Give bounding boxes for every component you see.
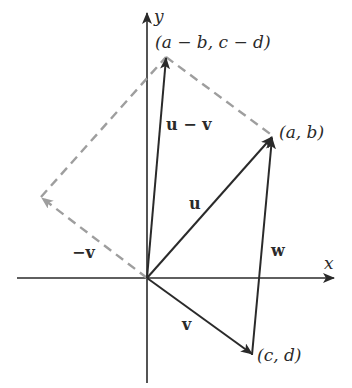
point-label-diff: (a − b, c − d)	[155, 34, 271, 51]
w-vector	[252, 138, 272, 355]
neg-v-vector	[42, 198, 147, 278]
x-axis-label: x	[324, 255, 334, 272]
u-minus-v-vector	[147, 58, 166, 278]
y-axis-label: y	[154, 8, 164, 25]
v-vector	[147, 278, 252, 354]
diagram-graphic	[0, 0, 352, 388]
vector-label-neg-v: −v	[72, 245, 95, 261]
vector-label-u: u	[189, 196, 201, 212]
vector-label-v: v	[182, 317, 191, 333]
vector-label-u-minus-v: u − v	[166, 117, 211, 133]
point-label-ab: (a, b)	[279, 124, 324, 141]
vector-diagram: y x (a − b, c − d) (a, b) (c, d) u v −v …	[0, 0, 352, 388]
vector-label-w: w	[271, 243, 285, 259]
u-vector	[147, 137, 272, 278]
point-label-cd: (c, d)	[257, 347, 301, 364]
solid-vectors	[147, 58, 272, 355]
